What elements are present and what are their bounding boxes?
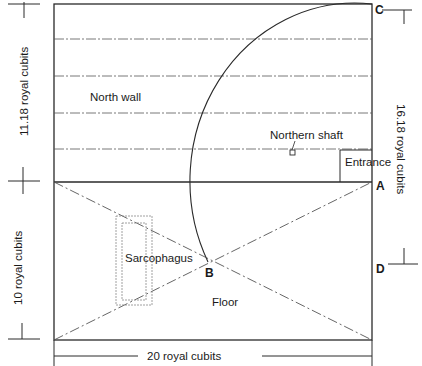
kings-chamber-diagram: North wall Northern shaft Entrance Sarco… <box>0 0 422 366</box>
northern-shaft-marker <box>290 150 295 155</box>
floor-label: Floor <box>212 296 238 308</box>
floor-width-label: 10 royal cubits <box>12 231 24 305</box>
floor-diagonals <box>54 182 372 340</box>
entrance-label: Entrance <box>345 156 391 168</box>
point-b: B <box>205 266 214 280</box>
point-a: A <box>376 179 385 193</box>
diagonal-total-label: 16.18 royal cubits <box>395 104 407 194</box>
north-wall-label: North wall <box>90 91 141 103</box>
floor-length-label: 20 royal cubits <box>147 350 221 362</box>
chamber-outline <box>54 4 372 340</box>
point-d: D <box>376 262 385 276</box>
northern-shaft-label: Northern shaft <box>270 129 344 141</box>
sarcophagus-label: Sarcophagus <box>125 252 193 264</box>
point-c: C <box>375 3 384 17</box>
wall-height-label: 11.18 royal cubits <box>18 46 30 136</box>
